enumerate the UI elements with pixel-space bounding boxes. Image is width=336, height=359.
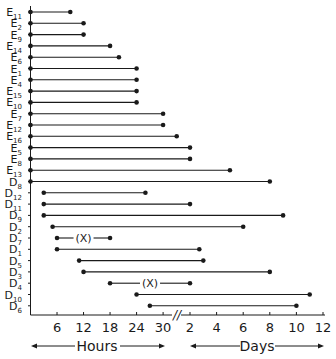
x-tick-label: 4 [212, 320, 220, 335]
start-dot [55, 236, 60, 241]
end-dot [161, 111, 166, 116]
x-tick-label: 10 [288, 320, 305, 335]
data-row: D10 [5, 289, 312, 304]
end-dot [197, 247, 202, 252]
end-dot [294, 304, 299, 309]
end-dot [108, 236, 113, 241]
start-dot [108, 281, 113, 286]
end-dot [134, 100, 139, 105]
start-dot [41, 202, 46, 207]
x-tick-label: 8 [266, 320, 274, 335]
x-tick-label: 24 [128, 320, 145, 335]
data-row: D2 [9, 221, 245, 236]
start-dot [50, 224, 55, 229]
data-row: E6 [11, 51, 122, 66]
end-dot [228, 168, 233, 173]
data-row: D8 [9, 176, 272, 191]
axis-titles: Hours Days [76, 338, 274, 354]
arrow-right-icon [159, 344, 165, 349]
data-row: E4 [11, 74, 139, 89]
data-row: D7(X) [9, 232, 112, 247]
data-row: E5 [11, 142, 193, 157]
x-tick-label: 12 [75, 320, 92, 335]
data-row: E15 [6, 85, 139, 100]
data-row: E16 [6, 130, 179, 145]
x-tick-label: 2 [186, 320, 194, 335]
excluded-marker: (X) [142, 277, 158, 290]
data-row: D5 [9, 255, 206, 270]
data-row: D12 [5, 187, 148, 202]
end-dot [188, 281, 193, 286]
data-row: E13 [6, 164, 232, 179]
chart-rows: E11E2E9E14E6E1E4E15E10E7E12E16E5E8E13D8D… [5, 6, 312, 315]
end-dot [201, 258, 206, 263]
start-dot [148, 304, 153, 309]
arrow-left-icon [31, 344, 37, 349]
arrow-left-icon [190, 344, 196, 349]
end-dot [188, 202, 193, 207]
range-chart: E11E2E9E14E6E1E4E15E10E7E12E16E5E8E13D8D… [0, 0, 336, 359]
data-row: D1 [9, 243, 202, 258]
data-row: D6 [9, 300, 299, 315]
chart-container: E11E2E9E14E6E1E4E15E10E7E12E16E5E8E13D8D… [0, 0, 336, 359]
end-dot [108, 44, 113, 49]
start-dot [81, 270, 86, 275]
start-dot [55, 247, 60, 252]
end-dot [188, 145, 193, 150]
end-dot [68, 10, 73, 15]
start-dot [134, 292, 139, 297]
end-dot [134, 66, 139, 71]
end-dot [281, 213, 286, 218]
start-dot [41, 213, 46, 218]
start-dot [41, 191, 46, 196]
data-row: E7 [11, 108, 166, 123]
data-row: E14 [6, 40, 112, 55]
data-row: D4(X) [9, 277, 192, 292]
end-dot [307, 292, 312, 297]
end-dot [174, 134, 179, 139]
x-tick-label: 6 [239, 320, 247, 335]
end-dot [161, 123, 166, 128]
end-dot [134, 78, 139, 83]
x-tick-label: 18 [102, 320, 119, 335]
x-tick-label: 12 [315, 320, 332, 335]
x-tick-label: 6 [53, 320, 61, 335]
end-dot [241, 224, 246, 229]
end-dot [81, 21, 86, 26]
data-row: D11 [5, 198, 193, 213]
end-dot [117, 55, 122, 60]
end-dot [188, 157, 193, 162]
data-row: E1 [11, 63, 139, 78]
end-dot [134, 89, 139, 94]
end-dot [268, 179, 273, 184]
start-dot [77, 258, 82, 263]
data-row: D9 [9, 209, 285, 224]
x-tick-label: 30 [155, 320, 172, 335]
excluded-marker: (X) [75, 232, 91, 245]
data-row: E10 [6, 96, 139, 111]
end-dot [81, 32, 86, 37]
days-label: Days [240, 338, 275, 354]
end-dot [268, 270, 273, 275]
data-row: E8 [11, 153, 193, 168]
end-dot [143, 191, 148, 196]
data-row: D3 [9, 266, 272, 281]
hours-label: Hours [76, 338, 117, 354]
arrow-right-icon [318, 344, 324, 349]
